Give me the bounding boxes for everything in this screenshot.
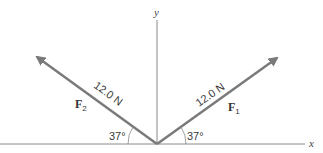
angle-label-f2: 37° (109, 130, 126, 142)
angle-arc-f2 (128, 127, 133, 144)
magnitude-label-f1: 12.0 N (193, 80, 226, 108)
vector-name-f2: F2 (75, 97, 87, 113)
x-axis-label: x (308, 137, 314, 149)
vector-f1-arrow (157, 58, 277, 144)
vector-f2-arrow (37, 57, 157, 144)
angle-arc-f1 (181, 127, 186, 144)
angle-label-f1: 37° (187, 130, 204, 142)
force-diagram: x y 37° 37° 12.0 N 12.0 N F1 F2 (0, 0, 323, 153)
y-axis-label: y (153, 6, 159, 18)
magnitude-label-f2: 12.0 N (92, 79, 125, 108)
vector-name-f1: F1 (228, 100, 240, 116)
